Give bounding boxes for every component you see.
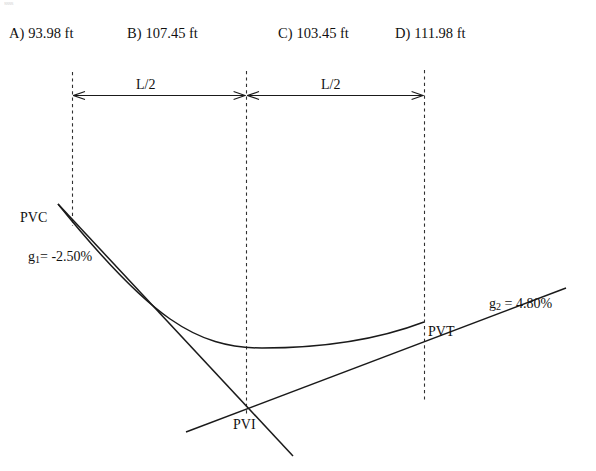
parabolic-sag-curve	[58, 204, 424, 348]
vertical-curve-diagram	[0, 0, 596, 471]
grade-in-symbol: g	[28, 249, 35, 264]
dimension-label-right-half: L/2	[321, 77, 340, 93]
tangent-line-g1	[58, 204, 293, 456]
label-pvi: PVI	[233, 417, 256, 433]
grade-out-symbol: g	[489, 296, 496, 311]
label-grade-in: g1= -2.50%	[28, 249, 92, 268]
label-pvc: PVC	[20, 210, 47, 226]
label-pvt: PVT	[428, 324, 454, 340]
grade-in-value: = -2.50%	[40, 249, 92, 264]
figure-page: ssss A)93.98 ft B)107.45 ft C)103.45 ft …	[0, 0, 596, 471]
label-grade-out: g2 = 4.80%	[489, 296, 552, 315]
dimension-label-left-half: L/2	[136, 77, 155, 93]
grade-out-value: = 4.80%	[501, 296, 552, 311]
